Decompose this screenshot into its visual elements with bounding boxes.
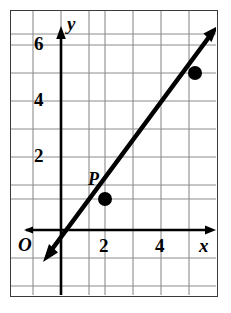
coordinate-plane-figure: 6 4 2 2 4 y x O P <box>0 0 231 313</box>
point-p-marker <box>98 192 112 206</box>
x-tick-label-4: 4 <box>155 236 165 255</box>
x-axis <box>24 226 216 235</box>
plotted-line <box>43 26 218 262</box>
y-tick-label-6: 6 <box>34 34 44 53</box>
x-axis-label: x <box>199 236 209 255</box>
y-axis-label: y <box>67 14 75 33</box>
origin-label: O <box>18 235 32 254</box>
x-tick-label-2: 2 <box>99 236 109 255</box>
point-p-label: P <box>88 170 99 188</box>
y-tick-label-2: 2 <box>34 146 44 165</box>
point-secondary-marker <box>188 66 202 80</box>
y-axis <box>56 26 66 295</box>
y-tick-label-4: 4 <box>34 90 44 109</box>
